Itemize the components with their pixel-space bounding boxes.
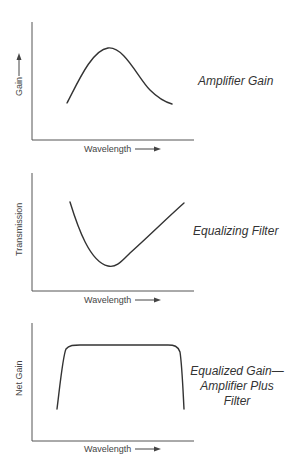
- panel-caption: Amplifier Gain: [197, 74, 274, 88]
- y-axis-label-group: Transmission: [14, 203, 24, 256]
- gain-equalization-diagram: Gain Wavelength Amplifier Gain Transmiss…: [0, 0, 300, 465]
- y-axis-label-group: Gain: [14, 77, 24, 96]
- panel-amplifier-gain: Gain Wavelength Amplifier Gain: [14, 22, 274, 154]
- right-arrow-icon: [154, 447, 161, 452]
- y-axis: [32, 323, 194, 441]
- y-axis-label-group: Net Gain: [14, 360, 24, 396]
- net-gain-curve: [57, 345, 184, 409]
- panel-equalizing-filter: Transmission Wavelength Equalizing Filte…: [14, 173, 279, 305]
- panel-caption-line-1: Equalized Gain—: [190, 364, 284, 378]
- panel-caption: Equalizing Filter: [193, 224, 279, 238]
- panel-caption-line-2: Amplifier Plus: [199, 379, 273, 393]
- panel-equalized-gain: Net Gain Wavelength Equalized Gain— Ampl…: [14, 323, 285, 454]
- y-axis-label: Net Gain: [14, 360, 24, 396]
- x-axis-label: Wavelength: [84, 144, 131, 154]
- right-arrow-icon: [154, 147, 161, 152]
- right-arrow-icon: [154, 298, 161, 303]
- y-axis-label: Transmission: [14, 203, 24, 256]
- x-axis-label: Wavelength: [84, 444, 131, 454]
- panel-caption-line-3: Filter: [224, 394, 252, 408]
- up-arrow-icon: [17, 53, 22, 60]
- y-axis: [32, 22, 194, 140]
- amplifier-gain-curve: [67, 48, 172, 104]
- x-axis-label: Wavelength: [84, 295, 131, 305]
- y-axis: [32, 173, 194, 291]
- y-axis-label: Gain: [14, 77, 24, 96]
- filter-transmission-curve: [70, 202, 184, 266]
